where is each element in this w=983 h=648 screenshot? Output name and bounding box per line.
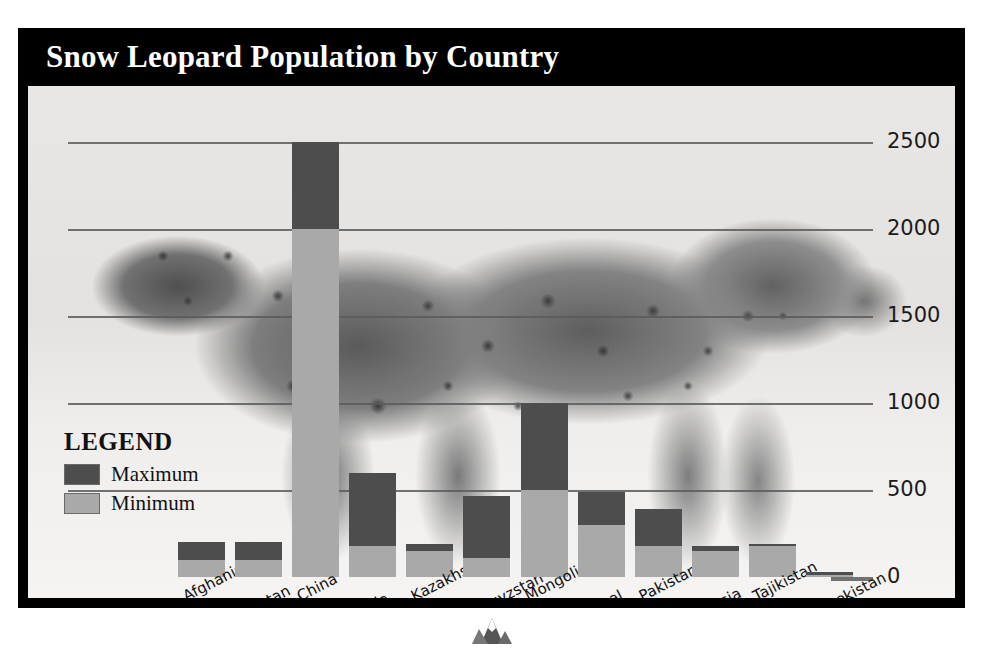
poster-frame: 05001000150020002500AfghanistanBhutanChi… bbox=[18, 28, 965, 608]
y-axis-tick-2500: 2500 bbox=[887, 131, 940, 152]
gridline-2000 bbox=[68, 229, 873, 231]
bar-segment-minimum bbox=[521, 490, 568, 577]
y-axis-tick-500: 500 bbox=[887, 479, 927, 500]
legend-item-maximum: Maximum bbox=[64, 462, 199, 487]
bar-segment-minimum bbox=[692, 551, 739, 577]
mountain-logo-icon bbox=[470, 616, 514, 646]
title-band: Snow Leopard Population by Country bbox=[18, 28, 718, 86]
bar-segment-maximum bbox=[349, 473, 396, 546]
bar-segment-maximum bbox=[635, 509, 682, 546]
x-axis-label-russia: Russia bbox=[693, 584, 744, 598]
bar-india bbox=[349, 473, 396, 577]
bar-segment-maximum bbox=[178, 542, 225, 559]
legend-label-maximum: Maximum bbox=[111, 462, 199, 487]
gridline-2500 bbox=[68, 142, 873, 144]
bar-mongolia bbox=[521, 403, 568, 577]
x-axis-label-bhutan: Bhutan bbox=[237, 582, 293, 598]
bar-segment-minimum bbox=[235, 560, 282, 577]
bar-china bbox=[292, 142, 339, 577]
bar-segment-minimum bbox=[292, 229, 339, 577]
gridline-1000 bbox=[68, 403, 873, 405]
bar-pakistan bbox=[635, 509, 682, 577]
bar-kyrgyzstan bbox=[463, 496, 510, 577]
y-axis-tick-1500: 1500 bbox=[887, 305, 940, 326]
y-axis-tick-2000: 2000 bbox=[887, 218, 940, 239]
legend-swatch-maximum bbox=[64, 464, 100, 485]
bar-segment-minimum bbox=[463, 558, 510, 577]
bar-segment-maximum bbox=[463, 496, 510, 558]
bar-segment-minimum bbox=[349, 546, 396, 577]
legend-swatch-minimum bbox=[64, 493, 100, 514]
chart-panel: 05001000150020002500AfghanistanBhutanChi… bbox=[28, 86, 955, 598]
bar-segment-minimum bbox=[806, 575, 853, 577]
legend: LEGEND Maximum Minimum bbox=[64, 428, 199, 516]
y-axis-tick-1000: 1000 bbox=[887, 392, 940, 413]
page-title: Snow Leopard Population by Country bbox=[46, 39, 559, 75]
bar-segment-maximum bbox=[406, 544, 453, 551]
x-axis-label-nepal: Nepal bbox=[579, 586, 626, 598]
bar-uzbekistan bbox=[806, 572, 853, 577]
bar-segment-maximum bbox=[235, 542, 282, 559]
poster-root: 05001000150020002500AfghanistanBhutanChi… bbox=[0, 0, 983, 648]
legend-label-minimum: Minimum bbox=[111, 491, 195, 516]
bar-bhutan bbox=[235, 542, 282, 577]
bar-nepal bbox=[578, 492, 625, 577]
legend-item-minimum: Minimum bbox=[64, 491, 199, 516]
plot-area: 05001000150020002500AfghanistanBhutanChi… bbox=[28, 86, 955, 598]
gridline-1500 bbox=[68, 316, 873, 318]
x-axis-label-india: India bbox=[351, 589, 392, 598]
bar-segment-maximum bbox=[292, 142, 339, 229]
legend-heading: LEGEND bbox=[64, 428, 199, 456]
bar-russia bbox=[692, 546, 739, 577]
bar-segment-maximum bbox=[521, 403, 568, 490]
bar-segment-minimum bbox=[578, 525, 625, 577]
bar-segment-maximum bbox=[578, 492, 625, 525]
